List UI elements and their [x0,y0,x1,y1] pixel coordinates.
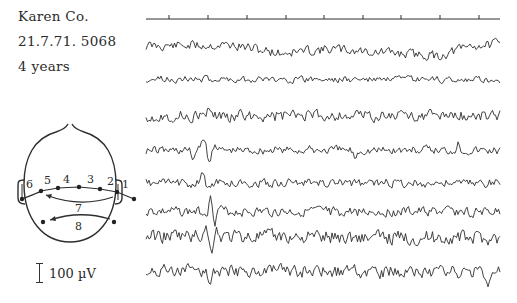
eeg-trace-channel-6 [146,196,500,227]
timing-line [146,15,500,19]
eeg-trace-channel-5 [146,173,500,188]
eeg-trace-channel-4 [146,140,500,162]
eeg-trace-channel-1 [146,38,500,60]
eeg-trace-channel-8 [146,263,500,287]
eeg-traces [0,0,517,303]
eeg-trace-channel-3 [146,108,500,123]
eeg-trace-channel-2 [146,75,500,83]
eeg-trace-channel-7 [146,226,500,254]
trace-channels [146,38,500,286]
